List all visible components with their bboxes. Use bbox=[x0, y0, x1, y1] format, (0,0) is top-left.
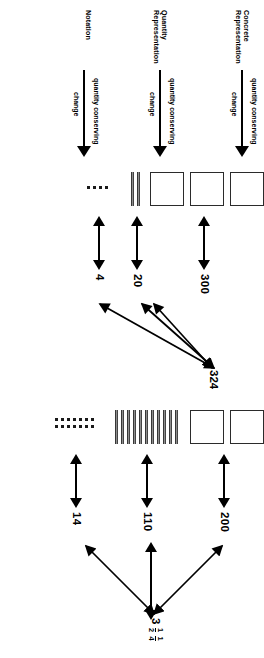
column-caption-quantity-line2: Representation bbox=[152, 10, 160, 64]
quantity-conserving-change-arrow-concrete: quantity conserving change bbox=[214, 70, 224, 156]
arrow-head-right-icon bbox=[141, 498, 153, 508]
arrow-label-line2: change bbox=[148, 92, 156, 117]
ten-bar bbox=[121, 410, 124, 444]
unit-dot bbox=[61, 425, 64, 428]
ten-bar bbox=[115, 410, 118, 444]
panel-324: 300 20 4 324 bbox=[48, 168, 224, 404]
arrow-head-right-icon bbox=[131, 260, 143, 270]
quantity-value-hundreds: 300 bbox=[199, 274, 211, 294]
ten-bar bbox=[145, 410, 148, 444]
quantity-value-tens: 20 bbox=[132, 274, 144, 287]
panel-mixed-number: 200 110 14 3 1 2 1 4 bbox=[48, 406, 224, 656]
diagram-canvas: Concrete Representation Quantity Represe… bbox=[48, 0, 224, 658]
unit-dot bbox=[79, 418, 82, 421]
fraction-denominator: 4 bbox=[147, 636, 156, 640]
arrow-label-line2: change bbox=[72, 92, 80, 117]
link-concrete-quantity-hundreds bbox=[218, 454, 224, 508]
unit-dot bbox=[105, 186, 108, 189]
unit-dot bbox=[85, 418, 88, 421]
arrow-shaft bbox=[146, 463, 148, 499]
unit-dot bbox=[93, 186, 96, 189]
notation-value-mixed: 3 1 2 1 4 bbox=[147, 618, 164, 641]
arrow-shaft bbox=[136, 225, 138, 261]
ten-bar bbox=[139, 410, 142, 444]
ten-bar bbox=[127, 410, 130, 444]
quantity-value-units: 4 bbox=[94, 274, 106, 281]
quantity-conserving-change-arrow-quantity: quantity conserving change bbox=[132, 70, 188, 156]
quantity-value-tens: 110 bbox=[142, 512, 154, 531]
unit-dot bbox=[55, 425, 58, 428]
unit-dot bbox=[67, 425, 70, 428]
ten-bar bbox=[131, 172, 134, 206]
ten-bar bbox=[151, 410, 154, 444]
quantity-value-hundreds: 200 bbox=[219, 512, 224, 532]
unit-dot bbox=[99, 186, 102, 189]
link-concrete-quantity-hundreds bbox=[198, 216, 210, 270]
unit-dot bbox=[73, 418, 76, 421]
quantity-conserving-change-arrow-notation: quantity conserving change bbox=[56, 70, 112, 156]
notation-value-324: 324 bbox=[208, 370, 220, 389]
hundred-square bbox=[150, 172, 184, 206]
link-quantity-notation-units bbox=[80, 542, 168, 618]
arrow-shaft bbox=[75, 463, 77, 499]
hundred-square bbox=[190, 172, 224, 206]
unit-dot bbox=[61, 418, 64, 421]
arrow-head-right-icon bbox=[198, 260, 210, 270]
unit-dot bbox=[55, 418, 58, 421]
unit-dot bbox=[67, 418, 70, 421]
arrow-head-right-icon bbox=[93, 260, 105, 270]
fraction-denominator: 2 bbox=[147, 628, 156, 632]
unit-dot bbox=[87, 186, 90, 189]
column-caption-notation-line1: Notation bbox=[84, 10, 92, 40]
arrow-shaft bbox=[98, 225, 100, 261]
link-concrete-quantity-units bbox=[70, 454, 82, 508]
ten-bar bbox=[163, 410, 166, 444]
arrow-shaft bbox=[83, 70, 85, 148]
unit-dot bbox=[91, 418, 94, 421]
fraction-numerator: 1 bbox=[156, 636, 164, 640]
link-quantity-notation-units bbox=[96, 300, 224, 372]
arrow-label-line1: quantity conserving bbox=[92, 78, 100, 145]
arrow-label-line1: quantity conserving bbox=[168, 78, 176, 145]
hundred-square bbox=[190, 410, 224, 444]
arrow-head-icon bbox=[154, 146, 168, 157]
arrow-head-icon bbox=[78, 146, 92, 157]
arrow-shaft bbox=[159, 70, 161, 148]
arrow-shaft bbox=[203, 225, 205, 261]
ten-bar bbox=[157, 410, 160, 444]
link-concrete-quantity-tens bbox=[131, 216, 143, 270]
notation-fraction-quarter: 1 4 bbox=[147, 636, 164, 640]
link-concrete-quantity-units bbox=[93, 216, 105, 270]
arrow-shaft bbox=[223, 463, 224, 499]
quantity-value-units: 14 bbox=[71, 512, 83, 525]
unit-dot bbox=[73, 425, 76, 428]
column-caption-quantity: Quantity Representation bbox=[152, 10, 168, 64]
ten-bar bbox=[137, 172, 140, 206]
ten-bar bbox=[169, 410, 172, 444]
notation-fraction-half: 1 2 bbox=[147, 628, 164, 632]
notation-whole-number: 3 bbox=[150, 618, 162, 624]
arrow-head-right-icon bbox=[218, 498, 224, 508]
link-concrete-quantity-tens bbox=[141, 454, 153, 508]
column-caption-quantity-line1: Quantity bbox=[160, 10, 168, 64]
unit-dot bbox=[91, 425, 94, 428]
arrow-head-right-icon bbox=[70, 498, 82, 508]
ten-bar bbox=[175, 410, 178, 444]
fraction-numerator: 1 bbox=[156, 628, 164, 632]
unit-dot bbox=[85, 425, 88, 428]
unit-dot bbox=[79, 425, 82, 428]
column-caption-notation: Notation bbox=[84, 10, 92, 40]
ten-bar bbox=[133, 410, 136, 444]
